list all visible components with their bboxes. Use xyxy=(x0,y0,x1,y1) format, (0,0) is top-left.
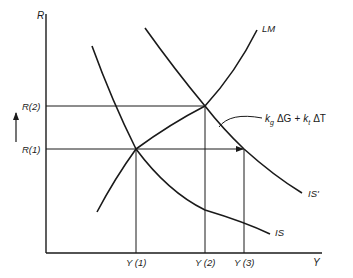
y3-label: Y (3) xyxy=(234,257,254,268)
is-lm-diagram: R Y R(2) R(1) Y (1) Y (2) Y (3) LM IS IS… xyxy=(0,0,353,278)
x-axis-label: Y xyxy=(313,257,321,268)
y-axis-label: R xyxy=(37,10,44,21)
shift-annotation: kgΔG+ktΔT xyxy=(265,113,326,127)
lm-curve xyxy=(97,30,257,212)
r2-label: R(2) xyxy=(22,101,40,112)
y2-label: Y (2) xyxy=(195,257,215,268)
lm-label: LM xyxy=(262,23,275,34)
is-label: IS xyxy=(275,227,285,238)
y1-label: Y (1) xyxy=(126,257,146,268)
is-prime-curve xyxy=(145,28,302,193)
is-curve xyxy=(92,46,270,234)
r1-label: R(1) xyxy=(22,144,40,155)
shift-pointer-arrow xyxy=(219,116,262,127)
is-prime-label: IS' xyxy=(308,188,320,199)
